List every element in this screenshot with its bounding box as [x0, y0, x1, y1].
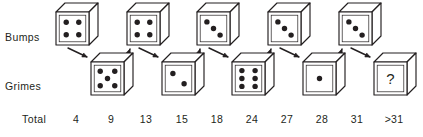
row-label-total: Total	[22, 113, 46, 125]
total-value-1: 4	[73, 113, 79, 125]
die-grimes-1	[91, 53, 133, 95]
die-bumps-5	[339, 3, 381, 45]
unknown-face-question-mark: ?	[386, 70, 394, 87]
die-grimes-2	[162, 53, 204, 95]
row-label-bumps: Bumps	[5, 31, 40, 43]
total-value-4: 15	[176, 113, 188, 125]
total-value-9: 31	[351, 113, 363, 125]
dice-group: ?	[56, 3, 416, 95]
arrow-bumps-5-to-grimes-5	[351, 48, 370, 57]
die-bumps-1	[56, 3, 98, 45]
total-value-3: 13	[140, 113, 152, 125]
die-bumps-2	[127, 3, 169, 45]
total-value-2: 9	[108, 113, 114, 125]
total-value-10: >31	[385, 113, 404, 125]
total-value-7: 27	[281, 113, 293, 125]
die-grimes-3	[232, 53, 274, 95]
die-grimes-5: ?	[374, 53, 416, 95]
die-bumps-3	[197, 3, 239, 45]
arrow-bumps-4-to-grimes-4	[280, 48, 299, 57]
die-grimes-4	[303, 53, 345, 95]
total-value-8: 28	[316, 113, 328, 125]
arrow-bumps-2-to-grimes-2	[139, 48, 158, 57]
total-value-6: 24	[246, 113, 258, 125]
total-value-5: 18	[211, 113, 223, 125]
arrow-bumps-1-to-grimes-1	[68, 48, 87, 57]
die-bumps-4	[268, 3, 310, 45]
row-label-grimes: Grimes	[5, 80, 41, 92]
arrow-bumps-3-to-grimes-3	[209, 48, 228, 57]
dice-sequence-figure: ? Bumps Grimes Total 4913151824272831>31	[0, 0, 423, 137]
